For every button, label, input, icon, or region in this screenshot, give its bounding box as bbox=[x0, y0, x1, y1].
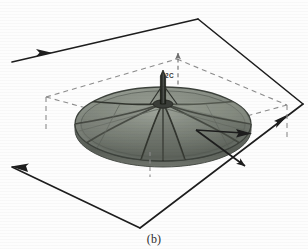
dimension-label-2c: 2C bbox=[165, 72, 174, 79]
plane-edge-bottom-left bbox=[12, 167, 140, 228]
figure-panel-b: 2C (b) bbox=[0, 0, 308, 249]
reflector-dish-group bbox=[75, 70, 251, 167]
plane-edge-top-right bbox=[198, 19, 303, 104]
figure-caption: (b) bbox=[0, 232, 308, 247]
technical-figure-svg: 2C bbox=[0, 0, 308, 249]
